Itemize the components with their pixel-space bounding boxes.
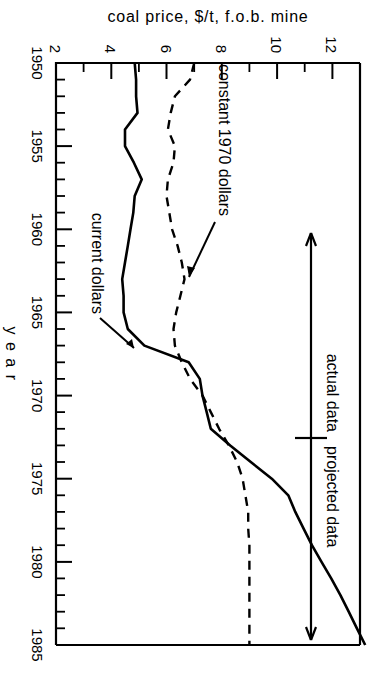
x-axis-title: y e a r bbox=[3, 327, 20, 382]
y-axis-tick-labels: 2 4 6 8 10 12 bbox=[47, 36, 340, 53]
callout-arrowhead-current-dollars bbox=[126, 339, 134, 348]
y-tick-label-2: 2 bbox=[47, 45, 64, 53]
callout-label-constant-1970-dollars: constant 1970 dollars bbox=[216, 64, 233, 216]
callout-label-current-dollars: current dollars bbox=[89, 213, 106, 314]
y-tick-label-12: 12 bbox=[323, 36, 340, 53]
y-tick-label-10: 10 bbox=[268, 36, 285, 53]
x-tick-label-1950: 1950 bbox=[29, 46, 46, 79]
y-axis-title: coal price, $/t, f.o.b. mine bbox=[107, 8, 308, 25]
coal-price-chart-svg: 1950 1955 1960 1965 1970 1975 1980 1985 … bbox=[0, 0, 389, 676]
x-tick-label-1965: 1965 bbox=[29, 296, 46, 329]
annotation-label-projected-data: projected data bbox=[324, 446, 341, 548]
x-axis-minor-ticks bbox=[56, 80, 65, 629]
coal-price-figure: 1950 1955 1960 1965 1970 1975 1980 1985 … bbox=[0, 0, 389, 676]
callout-constant-1970-dollars: constant 1970 dollars bbox=[187, 64, 233, 277]
y-tick-label-4: 4 bbox=[102, 45, 119, 53]
x-tick-label-1975: 1975 bbox=[29, 462, 46, 495]
x-axis-tick-labels: 1950 1955 1960 1965 1970 1975 1980 1985 bbox=[29, 46, 46, 661]
annotation-label-actual-data: actual data bbox=[324, 354, 341, 432]
actual-projected-labels: actual data projected data bbox=[324, 354, 341, 548]
chart-page: 1950 1955 1960 1965 1970 1975 1980 1985 … bbox=[0, 0, 389, 676]
x-tick-label-1980: 1980 bbox=[29, 545, 46, 578]
x-tick-label-1955: 1955 bbox=[29, 129, 46, 162]
series-constant-1970-dollars bbox=[167, 63, 250, 645]
x-tick-label-1985: 1985 bbox=[29, 628, 46, 661]
x-tick-label-1960: 1960 bbox=[29, 213, 46, 246]
x-tick-label-1970: 1970 bbox=[29, 379, 46, 412]
x-axis-major-ticks bbox=[56, 63, 72, 645]
actual-projected-annotation bbox=[295, 233, 327, 640]
axis-frame bbox=[56, 63, 360, 645]
y-tick-label-6: 6 bbox=[158, 45, 175, 53]
y-tick-label-8: 8 bbox=[213, 45, 230, 53]
